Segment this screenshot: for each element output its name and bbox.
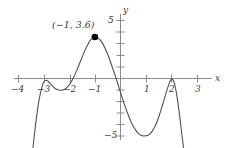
local-maximum-point [92,34,99,41]
y-axis-label: y [123,6,128,15]
x-tick-label-neg1: −1 [88,85,101,94]
x-tick-label-neg3: −3 [37,85,50,94]
function-graph-figure: (−1, 3.6) x y −4 −3 −2 −1 1 2 3 5 −5 [0,0,226,148]
x-tick-label-2: 2 [169,85,175,94]
y-tick-label-5: 5 [108,16,114,25]
axes-group [14,14,212,140]
x-axis-label: x [215,74,220,83]
x-tick-label-1: 1 [144,85,150,94]
local-maximum-label: (−1, 3.6) [52,20,95,30]
x-tick-label-3: 3 [195,85,201,94]
y-tick-label-neg5: −5 [104,131,117,140]
x-tick-label-neg2: −2 [63,85,76,94]
x-tick-label-neg4: −4 [11,85,24,94]
